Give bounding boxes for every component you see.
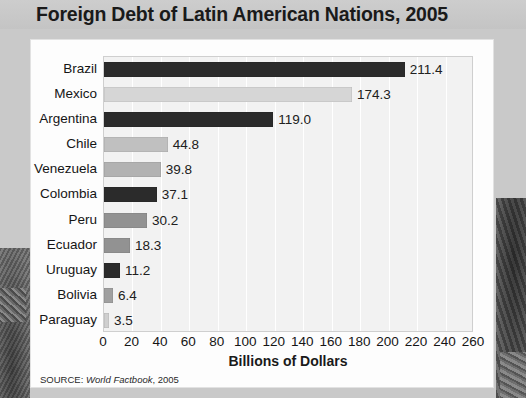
bar-value-label: 44.8 [173, 137, 199, 152]
photo-bleed-right-lower [500, 352, 526, 398]
bar-row: 44.8 [104, 132, 472, 157]
bar-row: 3.5 [104, 308, 472, 333]
bar-row: 18.3 [104, 233, 472, 258]
bar-value-label: 211.4 [410, 62, 443, 77]
category-label-argentina: Argentina [39, 106, 97, 131]
category-axis: BrazilMexicoArgentinaChileVenezuelaColom… [31, 56, 102, 332]
x-tick-label-20: 20 [124, 334, 139, 349]
bar-paraguay [104, 313, 109, 328]
bar-rows: 211.4174.3119.044.839.837.130.218.311.26… [104, 57, 472, 331]
x-tick-label-100: 100 [234, 334, 257, 349]
source-suffix: , 2005 [152, 374, 178, 385]
bar-row: 39.8 [104, 157, 472, 182]
bar-row: 119.0 [104, 107, 472, 132]
bar-value-label: 119.0 [278, 112, 311, 127]
category-label-uruguay: Uruguay [46, 257, 97, 282]
bar-value-label: 37.1 [162, 187, 188, 202]
title-band: Foreign Debt of Latin American Nations, … [0, 0, 526, 29]
x-tick-label-40: 40 [152, 334, 167, 349]
chart-card: BrazilMexicoArgentinaChileVenezuelaColom… [31, 40, 493, 387]
x-tick-label-260: 260 [462, 334, 485, 349]
category-label-colombia: Colombia [40, 181, 97, 206]
category-label-brazil: Brazil [63, 56, 97, 81]
bar-venezuela [104, 162, 161, 177]
page-title: Foreign Debt of Latin American Nations, … [36, 3, 448, 26]
bar-mexico [104, 87, 352, 102]
category-label-peru: Peru [68, 207, 97, 232]
source-title: World Factbook [86, 374, 153, 385]
x-axis-ticks: 020406080100120140160180200220240260 [103, 334, 473, 353]
bar-value-label: 18.3 [135, 238, 161, 253]
category-label-bolivia: Bolivia [57, 282, 97, 307]
bar-row: 37.1 [104, 182, 472, 207]
bar-row: 6.4 [104, 283, 472, 308]
x-tick-label-0: 0 [99, 334, 107, 349]
plot-area: 211.4174.3119.044.839.837.130.218.311.26… [103, 56, 473, 332]
category-label-venezuela: Venezuela [34, 156, 97, 181]
x-tick-label-160: 160 [319, 334, 342, 349]
category-label-mexico: Mexico [54, 81, 97, 106]
x-tick-label-200: 200 [376, 334, 399, 349]
bar-value-label: 6.4 [118, 288, 137, 303]
bar-uruguay [104, 263, 120, 278]
category-label-chile: Chile [66, 131, 97, 156]
bar-row: 11.2 [104, 258, 472, 283]
bar-colombia [104, 187, 157, 202]
bar-bolivia [104, 288, 113, 303]
photo-bleed-left-strip [0, 288, 26, 322]
bar-ecuador [104, 238, 130, 253]
bar-value-label: 174.3 [357, 87, 391, 102]
bar-row: 174.3 [104, 82, 472, 107]
category-label-ecuador: Ecuador [47, 232, 97, 257]
source-prefix: SOURCE: [40, 374, 83, 385]
gridline-260 [474, 57, 475, 331]
x-tick-label-140: 140 [291, 334, 314, 349]
bar-value-label: 30.2 [152, 213, 178, 228]
x-tick-label-80: 80 [209, 334, 224, 349]
x-axis-title: Billions of Dollars [103, 353, 473, 369]
bar-brazil [104, 62, 405, 77]
x-tick-label-60: 60 [181, 334, 196, 349]
x-tick-label-120: 120 [263, 334, 286, 349]
bar-peru [104, 213, 147, 228]
source-note: SOURCE: World Factbook, 2005 [40, 374, 179, 385]
bar-chile [104, 137, 168, 152]
bar-value-label: 3.5 [114, 313, 133, 328]
category-label-paraguay: Paraguay [39, 307, 97, 332]
x-tick-label-180: 180 [348, 334, 371, 349]
x-tick-label-220: 220 [405, 334, 428, 349]
bar-row: 211.4 [104, 57, 472, 82]
bar-argentina [104, 112, 273, 127]
bar-value-label: 39.8 [166, 162, 192, 177]
bar-value-label: 11.2 [125, 263, 150, 278]
bar-row: 30.2 [104, 208, 472, 233]
x-tick-label-240: 240 [433, 334, 456, 349]
photo-bleed-left [0, 248, 30, 398]
